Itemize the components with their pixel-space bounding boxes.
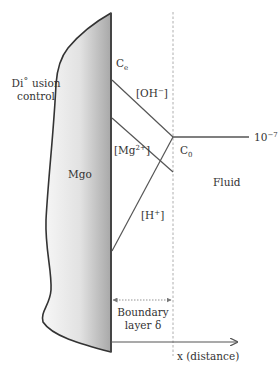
x-axis-label: x (distance)	[177, 350, 239, 363]
c0-label: C0	[180, 144, 193, 157]
mg-superscript: 2+	[136, 144, 146, 152]
c0-main-text: C	[180, 144, 188, 156]
mgo-label-text: Mgo	[68, 168, 92, 180]
diffusion-label-line2: control	[10, 90, 62, 103]
mg-close: ]	[146, 144, 150, 156]
ce-subscript: e	[124, 64, 128, 72]
h-text: [H	[141, 209, 154, 221]
oh-close: ]	[164, 87, 168, 99]
diagram-canvas: Di˚ usion control Mgo Ce [OH−] [Mg2+] [H…	[0, 0, 280, 368]
ten-base-text: 10	[254, 131, 267, 143]
boundary-layer-label: Boundary layer δ	[112, 306, 174, 331]
h-label: [H+]	[141, 209, 164, 222]
oh-text: [OH	[136, 87, 158, 99]
ten-exponent: −7	[267, 131, 277, 139]
x-axis-text: x (distance)	[177, 350, 239, 362]
boundary-label-line2: layer δ	[112, 319, 174, 332]
bulk-concentration-label: 10−7	[254, 131, 278, 144]
mgo-solid-shape	[42, 13, 111, 352]
oh-label: [OH−]	[136, 87, 168, 100]
mgo-label: Mgo	[68, 168, 92, 181]
ce-label: Ce	[116, 57, 128, 70]
mg-text: [Mg	[114, 144, 136, 156]
diffusion-control-label: Di˚ usion control	[10, 77, 62, 102]
fluid-label: Fluid	[213, 176, 241, 189]
c0-subscript: 0	[188, 151, 192, 159]
mg-label: [Mg2+]	[114, 144, 150, 157]
diffusion-label-line1: Di˚ usion	[10, 77, 62, 90]
h-close: ]	[160, 209, 164, 221]
boundary-label-line1: Boundary	[112, 306, 174, 319]
ce-main-text: C	[116, 57, 124, 69]
fluid-text: Fluid	[213, 176, 241, 188]
